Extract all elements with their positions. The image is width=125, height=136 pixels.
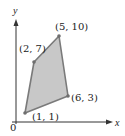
vertex-point: [66, 94, 70, 98]
x-axis-arrow-icon: [106, 120, 113, 125]
vertex-point: [57, 34, 61, 38]
vertex-point: [23, 111, 27, 115]
vertex-point: [32, 60, 36, 64]
feasible-region-plot: (1, 1) (2, 7) (5, 10) (6, 3) y x 0: [0, 0, 125, 136]
vertex-label: (2, 7): [19, 43, 46, 54]
vertex-label: (6, 3): [71, 92, 98, 103]
origin-label: 0: [10, 122, 16, 133]
y-axis-label: y: [12, 5, 18, 16]
y-axis-arrow-icon: [14, 19, 19, 26]
x-axis-label: x: [114, 117, 120, 128]
vertex-label: (1, 1): [32, 111, 59, 122]
vertex-label: (5, 10): [55, 21, 88, 32]
